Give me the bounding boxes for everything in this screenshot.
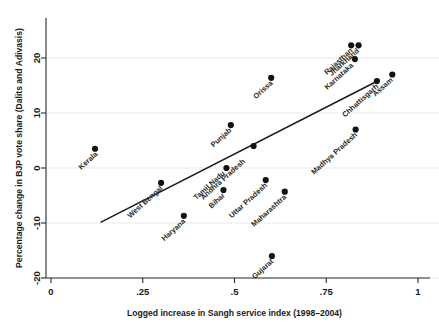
- y-tick-label: 20: [31, 53, 42, 64]
- x-tick-label: 0: [48, 286, 53, 297]
- data-point-label: Gujarat: [250, 256, 276, 280]
- y-tick-label: 10: [31, 108, 42, 119]
- data-point-label: West Bengal: [126, 184, 165, 220]
- y-tick-label: -20: [31, 271, 42, 285]
- data-point-label: Madhya Pradesh: [309, 130, 359, 176]
- x-axis-title: Logged increase in Sangh service index (…: [127, 308, 342, 318]
- x-tick-label: 1: [415, 286, 421, 297]
- y-tick-label: -10: [31, 216, 42, 230]
- y-tick-label: 0: [31, 165, 42, 170]
- data-point: [250, 143, 256, 149]
- data-point-label: Haryana: [159, 216, 187, 243]
- x-tick-label: .25: [136, 286, 150, 297]
- scatter-plot-figure: -20-10010200.25.5.751 KeralaWest BengalH…: [0, 0, 439, 325]
- data-point-label: Orissa: [251, 78, 275, 101]
- y-axis-title: Percentage change in BJP vote share (Dal…: [14, 28, 24, 268]
- data-point: [389, 71, 395, 77]
- data-points: [92, 42, 395, 259]
- data-point-labels: KeralaWest BengalHaryanaBiharTamil NaduP…: [77, 46, 395, 281]
- plot-canvas: -20-10010200.25.5.751 KeralaWest BengalH…: [0, 0, 439, 325]
- data-point: [228, 122, 234, 128]
- data-point-label: Punjab: [209, 126, 234, 149]
- data-point: [355, 42, 361, 48]
- axis-titles: Logged increase in Sangh service index (…: [14, 28, 342, 318]
- plot-axes: [46, 18, 430, 278]
- x-tick-label: .5: [231, 286, 240, 297]
- x-tick-label: .75: [320, 286, 334, 297]
